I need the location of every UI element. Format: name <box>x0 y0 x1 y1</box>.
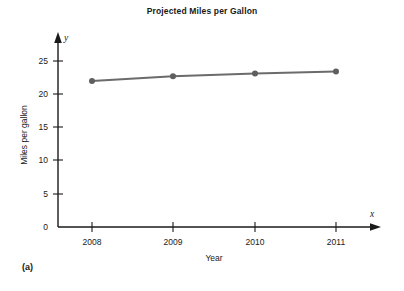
x-tick-label-2011: 2011 <box>327 237 346 247</box>
data-point-2009 <box>170 73 176 79</box>
y-tick-label-20: 20 <box>39 89 49 99</box>
y-tick-labels: 25 20 15 10 5 0 <box>39 56 49 232</box>
x-tick-label-2008: 2008 <box>83 237 102 247</box>
data-point-2008 <box>89 78 95 84</box>
panel-label: (a) <box>22 262 33 272</box>
y-tick-label-0: 0 <box>43 222 48 232</box>
y-axis-symbol: y <box>63 33 69 43</box>
x-axis-title: Year <box>205 253 222 263</box>
data-series-projected-mpg <box>89 69 339 84</box>
x-tick-label-2010: 2010 <box>246 237 265 247</box>
data-point-2011 <box>333 69 339 75</box>
x-tick-label-2009: 2009 <box>164 237 183 247</box>
y-tick-label-15: 15 <box>39 122 49 132</box>
y-tick-label-25: 25 <box>39 56 49 66</box>
x-axis-symbol: x <box>369 209 375 219</box>
y-tick-label-5: 5 <box>43 189 48 199</box>
y-axis-title: Miles per gallon <box>19 105 29 165</box>
data-point-2010 <box>252 71 258 77</box>
series-line <box>92 72 336 81</box>
x-tick-labels: 2008 2009 2010 2011 <box>83 237 346 247</box>
y-tick-label-10: 10 <box>39 155 49 165</box>
x-axis: x <box>58 209 381 231</box>
x-axis-arrowhead <box>370 223 381 231</box>
figure-container: Projected Miles per Gallon y x 25 20 15 … <box>0 0 404 291</box>
y-axis-arrowhead <box>54 32 62 43</box>
chart-plot-area: y x 25 20 15 10 5 0 <box>0 0 404 291</box>
